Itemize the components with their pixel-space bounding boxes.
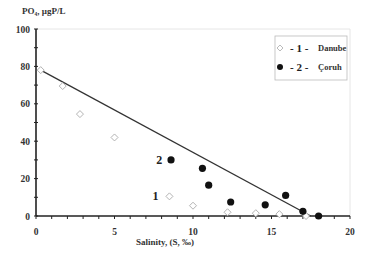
legend-label-danube: Danube <box>318 43 347 53</box>
coruh-point <box>205 182 212 189</box>
x-tick-label: 15 <box>267 227 277 237</box>
x-axis-title: Salinity, (S, ‰) <box>136 237 194 247</box>
coruh-point <box>227 198 234 205</box>
legend-num-1: - 1 - <box>290 42 309 54</box>
danube-point <box>224 209 231 216</box>
coruh-point <box>282 192 289 199</box>
legend-num-2: - 2 - <box>290 61 309 73</box>
x-tick-label: 10 <box>188 227 198 237</box>
coruh-point <box>199 165 206 172</box>
coruh-point <box>262 201 269 208</box>
filled-circle-icon <box>277 64 283 70</box>
coruh-point <box>299 208 306 215</box>
coruh-point <box>315 212 322 219</box>
danube-point <box>166 193 173 200</box>
y-tick-label: 0 <box>25 212 30 222</box>
legend: - 1 - Danube - 2 - Çoruh <box>275 36 347 80</box>
danube-point <box>37 67 44 74</box>
trendline <box>41 70 311 216</box>
annotation-2: 2 <box>156 153 162 167</box>
y-tick-label: 80 <box>21 62 31 72</box>
danube-point <box>76 111 83 118</box>
legend-label-coruh: Çoruh <box>318 62 342 72</box>
coruh-point <box>167 156 174 163</box>
y-tick-label: 60 <box>21 99 31 109</box>
x-tick-label: 20 <box>345 227 355 237</box>
x-tick-label: 0 <box>34 227 39 237</box>
danube-point <box>111 134 118 141</box>
y-tick-label: 20 <box>21 174 31 184</box>
scatter-chart: PO₄, µgP/L 02040608010005101520 1 2 Sali… <box>0 0 366 262</box>
y-axis-title: PO₄, µgP/L <box>22 6 65 16</box>
danube-point <box>190 202 197 209</box>
annotation-1: 1 <box>153 189 159 203</box>
data-points <box>37 67 322 220</box>
y-tick-label: 40 <box>21 137 31 147</box>
y-tick-label: 100 <box>16 25 31 35</box>
x-tick-label: 5 <box>112 227 117 237</box>
